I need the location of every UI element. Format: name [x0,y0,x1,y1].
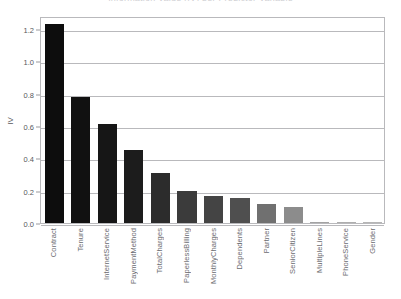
x-axis-tick-label: Gender [368,228,377,254]
bar-rect [124,150,143,223]
bar-rect [337,222,356,223]
x-axis-tick-label: PaymentMethod [129,228,138,284]
bar-rect [204,196,223,223]
bar[interactable] [284,16,303,223]
y-axis-tick-label: 0.4 [24,155,34,164]
bar[interactable] [71,16,90,223]
y-axis-tick-label: 0.8 [24,90,34,99]
bar[interactable] [337,16,356,223]
y-axis-tick-label: 0.2 [24,187,34,196]
bar-rect [284,207,303,223]
chart-title: Information Value (IV) per Predictor Var… [0,0,401,1]
y-axis-tick-label: 1.0 [24,58,34,67]
y-axis-tick-label: 1.2 [24,25,34,34]
bar-rect [363,222,382,223]
bar-rect [257,204,276,223]
bar-rect [71,97,90,223]
bar-rect [230,198,249,223]
x-axis-tick-label: PaperlessBilling [182,228,191,283]
bar-chart: Information Value (IV) per Predictor Var… [0,0,401,299]
x-axis-tick-label: MultipleLines [315,228,324,273]
bar-series [41,18,384,223]
x-axis-tick-label: Contract [49,228,58,257]
bar[interactable] [151,16,170,223]
bar[interactable] [45,16,64,223]
x-axis-tick-label: Tenure [76,228,85,252]
bar[interactable] [363,16,382,223]
bar[interactable] [204,16,223,223]
x-axis-tick-label: TotalCharges [155,228,164,273]
x-axis-tick-label: Partner [262,228,271,253]
bar-rect [98,124,117,223]
bar[interactable] [177,16,196,223]
y-axis: IV 0.00.20.40.60.81.01.2 [0,17,40,224]
bar-rect [45,24,64,223]
bar[interactable] [257,16,276,223]
x-axis-tick-label: InternetService [102,228,111,280]
bar[interactable] [310,16,329,223]
y-axis-tick-label: 0.6 [24,122,34,131]
x-axis-tick-label: MonthlyCharges [209,228,218,284]
bar[interactable] [230,16,249,223]
y-axis-tick-label: 0.0 [24,220,34,229]
y-axis-label: IV [6,117,15,125]
x-axis-tick-label: PhoneService [341,228,350,276]
x-axis-tick-label: Dependents [235,228,244,269]
bar-rect [151,173,170,223]
x-axis: ContractTenureInternetServicePaymentMeth… [40,225,385,299]
bar[interactable] [124,16,143,223]
plot-area [40,17,385,224]
bar-rect [177,191,196,223]
bar-rect [310,222,329,223]
bar[interactable] [98,16,117,223]
x-axis-tick-label: SeniorCitizen [288,228,297,274]
